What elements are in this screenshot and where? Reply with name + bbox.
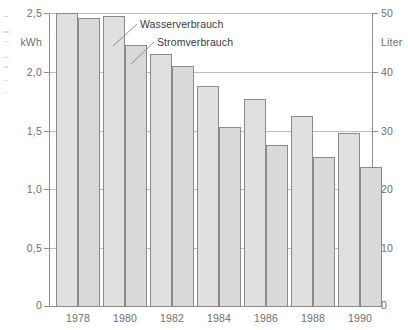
y-axis-right-tick-20: 20 — [381, 184, 407, 195]
legend-label-wasserverbrauch: Wasserverbrauch — [140, 18, 223, 30]
y-axis-right-tick-40: 40 — [381, 67, 407, 78]
y-axis-right-unit-label: Liter — [381, 37, 407, 48]
y-axis-right-tick-10: 10 — [381, 243, 407, 254]
y-axis-left-tick-2-5: 2,5 — [8, 8, 42, 19]
bar-water-1984 — [197, 86, 219, 307]
legend-label-stromverbrauch: Stromverbrauch — [157, 36, 233, 48]
bar-power-1986 — [266, 145, 288, 307]
bar-power-1990 — [360, 167, 382, 307]
gridline-2-5 — [49, 13, 372, 14]
y-axis-right-tick-50: 50 — [381, 8, 407, 19]
y-axis-left-tick-0-5: 0,5 — [8, 243, 42, 254]
bar-water-1988 — [291, 116, 313, 307]
bar-water-1982 — [150, 54, 172, 307]
bar-water-1986 — [244, 99, 266, 307]
bar-power-1978 — [78, 18, 100, 307]
y-axis-left-unit-label: kWh — [8, 37, 42, 48]
y-axis-left-tick-1-5: 1,5 — [8, 126, 42, 137]
y-axis-left-tick-1-0: 1,0 — [8, 184, 42, 195]
y-axis-left-tick-2-0: 2,0 — [8, 67, 42, 78]
y-axis-left-line — [49, 13, 50, 307]
bar-power-1984 — [219, 127, 241, 307]
bar-water-1980 — [103, 16, 125, 307]
y-axis-left-tick-0: 0 — [8, 300, 42, 311]
page-edge-artifacts — [0, 0, 14, 330]
chart-container: 2,5 kWh 2,0 1,5 1,0 0,5 0 50 Liter 40 30… — [0, 0, 408, 330]
bar-water-1990 — [338, 133, 360, 307]
y-axis-right-tick-30: 30 — [381, 126, 407, 137]
x-axis-label-1990: 1990 — [330, 312, 390, 324]
bar-power-1980 — [125, 45, 147, 307]
bar-water-1978 — [56, 13, 78, 307]
y-axis-right-tick-0: 0 — [381, 300, 407, 311]
bar-power-1982 — [172, 66, 194, 307]
bar-power-1988 — [313, 157, 335, 307]
